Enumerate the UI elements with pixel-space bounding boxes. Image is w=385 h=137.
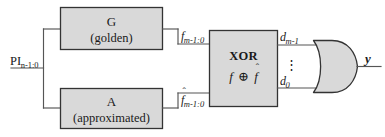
block-approx-subtitle: (approximated) (60, 112, 163, 125)
primary-input-base: PI (10, 54, 21, 68)
block-golden-text: G (golden) (60, 15, 163, 45)
xor-operand-right-wrap: ˆf (254, 70, 258, 83)
diagram-canvas (0, 0, 385, 137)
block-approx-text: A (approximated) (60, 95, 163, 125)
block-xor-text: XOR f ⊕ ˆf (210, 50, 277, 83)
block-xor-expression: f ⊕ ˆf (210, 70, 277, 83)
xor-operator-icon: ⊕ (236, 69, 251, 84)
signal-golden-out-subscript: m-1:0 (184, 35, 204, 45)
block-golden-subtitle: (golden) (60, 32, 163, 45)
signal-approx-out-subscript: m-1:0 (184, 99, 204, 109)
signal-diff-lsb: d0 (280, 75, 290, 87)
block-approx-name: A (60, 95, 163, 108)
signal-diff-msb-subscript: m-1 (286, 36, 299, 46)
primary-input-label: PIn-1:0 (10, 55, 39, 68)
signal-approx-out: ˆfm-1:0 (181, 94, 205, 106)
signal-diff-lsb-subscript: 0 (286, 80, 290, 90)
or-gate (314, 41, 358, 93)
block-xor-name: XOR (210, 50, 277, 63)
block-golden-name: G (60, 15, 163, 28)
signal-diff-ellipsis: ⋮ (285, 58, 298, 71)
signal-golden-out: fm-1:0 (181, 30, 205, 42)
primary-input-subscript: n-1:0 (21, 60, 39, 70)
error-detection-diagram: PIn-1:0 G (golden) A (approximated) XOR … (0, 0, 385, 137)
hat-accent-icon: ˆ (183, 87, 186, 97)
signal-diff-msb: dm-1 (280, 31, 299, 43)
xor-operand-left: f (229, 69, 233, 84)
signal-output-y: y (365, 52, 371, 65)
hat-accent-icon: ˆ (256, 63, 259, 73)
